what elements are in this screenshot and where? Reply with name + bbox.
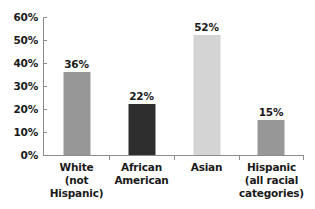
x-category-label-hispanic-line2: (all racial xyxy=(239,174,304,187)
x-tick-mark-4 xyxy=(303,155,304,160)
y-tick-label-50: 50% xyxy=(4,35,38,45)
bar-white[interactable] xyxy=(63,72,90,155)
x-axis-line xyxy=(43,155,303,156)
bar-slot-hispanic: 15% xyxy=(239,17,303,155)
y-tick-label-30: 30% xyxy=(4,81,38,91)
bar-value-asian: 52% xyxy=(194,22,219,33)
y-tick-20: 20% xyxy=(0,104,38,114)
y-tick-label-60: 60% xyxy=(4,12,38,22)
plot-area: 36% 22% 52% 15% xyxy=(44,17,303,155)
x-category-label-hispanic-line1: Hispanic xyxy=(239,161,304,174)
x-category-label-white-line2: (not Hispanic) xyxy=(44,174,109,200)
x-category-label-asian: Asian xyxy=(174,161,239,174)
bar-slot-asian: 52% xyxy=(174,17,239,155)
x-tick-mark-3 xyxy=(239,155,240,160)
y-tick-40: 40% xyxy=(0,58,38,68)
x-tick-mark-1 xyxy=(109,155,110,160)
y-tick-60: 60% xyxy=(0,12,38,22)
x-tick-mark-2 xyxy=(174,155,175,160)
bar-value-african-american: 22% xyxy=(129,91,154,102)
x-category-label-african-american-line1: African xyxy=(109,161,174,174)
bar-value-white: 36% xyxy=(64,59,89,70)
bar-value-hispanic: 15% xyxy=(259,107,284,118)
x-category-label-white-line1: White xyxy=(44,161,109,174)
bar-asian[interactable] xyxy=(193,35,220,155)
y-tick-0: 0% xyxy=(0,150,38,160)
x-category-label-african-american-line2: American xyxy=(109,174,174,187)
bar-slot-african-american: 22% xyxy=(109,17,174,155)
x-category-label-white: White (not Hispanic) xyxy=(44,161,109,200)
y-tick-label-10: 10% xyxy=(4,127,38,137)
y-tick-30: 30% xyxy=(0,81,38,91)
x-category-label-hispanic-line3: categories) xyxy=(239,187,304,200)
y-tick-50: 50% xyxy=(0,35,38,45)
bar-african-american[interactable] xyxy=(128,104,155,155)
bar-hispanic[interactable] xyxy=(258,120,285,155)
y-tick-label-20: 20% xyxy=(4,104,38,114)
y-tick-10: 10% xyxy=(0,127,38,137)
x-category-label-african-american: African American xyxy=(109,161,174,187)
bar-chart: 60% 50% 40% 30% 20% 10% 0% 36% xyxy=(0,0,315,209)
y-tick-label-40: 40% xyxy=(4,58,38,68)
x-category-label-hispanic: Hispanic (all racial categories) xyxy=(239,161,304,200)
bar-slot-white: 36% xyxy=(44,17,109,155)
x-category-label-asian-line1: Asian xyxy=(174,161,239,174)
y-tick-label-0: 0% xyxy=(4,150,38,160)
